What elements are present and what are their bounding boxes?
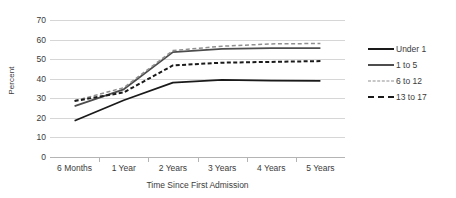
x-axis-tick-label: 5 Years (306, 163, 334, 173)
series-line (75, 48, 321, 106)
y-axis-tick-label: 10 (22, 132, 46, 142)
y-axis-tick-labels: 706050403020100 (22, 0, 46, 198)
x-axis-tick-label: 6 Months (57, 163, 92, 173)
x-axis-tick-mark (148, 157, 149, 162)
legend-item-label: Under 1 (396, 44, 426, 54)
series-layer (50, 20, 345, 157)
legend-item[interactable]: 13 to 17 (368, 90, 456, 104)
legend-item-label: 13 to 17 (396, 92, 427, 102)
series-line (75, 43, 321, 100)
dashed-light-line-swatch (368, 76, 394, 86)
dashed-bold-line-swatch (368, 92, 394, 102)
x-axis-tick-label: 4 Years (257, 163, 285, 173)
y-axis-tick-label: 50 (22, 54, 46, 64)
x-axis-tick-mark (247, 157, 248, 162)
series-line (75, 80, 321, 121)
x-axis-tick-mark (99, 157, 100, 162)
solid-line-swatch (368, 44, 394, 54)
legend-item[interactable]: 6 to 12 (368, 74, 456, 88)
line-chart: Percent 706050403020100 6 Months1 Year2 … (0, 0, 456, 198)
y-axis-title: Percent (7, 49, 16, 113)
plot-area (50, 20, 345, 157)
y-axis-tick-label: 0 (22, 152, 46, 162)
y-axis-tick-label: 20 (22, 113, 46, 123)
legend-item-label: 1 to 5 (396, 60, 417, 70)
legend-item-label: 6 to 12 (396, 76, 422, 86)
y-axis-tick-label: 60 (22, 35, 46, 45)
x-axis-tick-label: 1 Year (112, 163, 136, 173)
x-axis-title: Time Since First Admission (50, 180, 345, 190)
x-axis-tick-label: 2 Years (159, 163, 187, 173)
y-axis-tick-label: 40 (22, 74, 46, 84)
legend-item[interactable]: 1 to 5 (368, 58, 456, 72)
x-axis-tick-mark (296, 157, 297, 162)
legend-item[interactable]: Under 1 (368, 42, 456, 56)
chart-legend: Under 11 to 56 to 1213 to 17 (368, 42, 456, 106)
x-axis-tick-label: 3 Years (208, 163, 236, 173)
y-axis-tick-label: 30 (22, 93, 46, 103)
x-axis-tick-mark (198, 157, 199, 162)
solid-line-swatch (368, 60, 394, 70)
x-axis-tick-labels: 6 Months1 Year2 Years3 Years4 Years5 Yea… (50, 163, 345, 177)
y-axis-tick-label: 70 (22, 15, 46, 25)
